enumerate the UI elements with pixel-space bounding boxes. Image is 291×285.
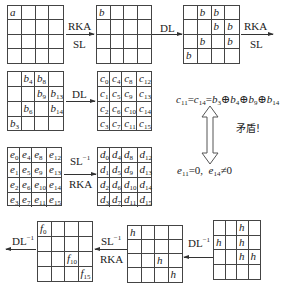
cell-subscript: 8 [43, 78, 47, 86]
cell-subscript: 1 [106, 169, 110, 177]
grid-cell: c1 [98, 87, 110, 102]
grid-cell: h [237, 221, 249, 236]
grid-cell: h [249, 250, 261, 265]
cell-subscript: 13 [145, 169, 152, 177]
grid-b-plain: b [96, 5, 152, 64]
label-contradiction: 矛盾! [236, 120, 260, 135]
label-sl-2: SL [250, 38, 263, 50]
sl-text: SL [70, 155, 83, 167]
equation-e11-e14: e11=0, e14≠0 [177, 164, 232, 178]
grid-cell: f10 [65, 252, 79, 267]
grid-cell: e15 [47, 193, 61, 207]
grid-cell [22, 49, 36, 63]
cell-subscript: 14 [54, 184, 61, 192]
grid-cell: b [97, 6, 111, 20]
grid-cell [212, 35, 226, 49]
grid-cell [36, 49, 50, 63]
cell-value: b [214, 20, 220, 32]
cell-value: h [130, 226, 136, 238]
cell-subscript: 5 [118, 169, 122, 177]
grid-cell [97, 35, 111, 49]
grid-cell [65, 222, 79, 237]
cell-subscript: 10 [130, 184, 137, 192]
grid-cell: c6 [110, 102, 122, 117]
grid-cell [79, 237, 93, 252]
arrow-left-2 [95, 249, 127, 250]
dl-text: DL [188, 237, 203, 249]
label-dl-2: DL [72, 88, 87, 100]
label-rka-1: RKA [68, 20, 91, 32]
cell-subscript: 6 [118, 184, 122, 192]
grid-cell [22, 117, 36, 131]
cell-value: b [186, 49, 192, 61]
grid-cell: c0 [98, 72, 110, 87]
grid-cell: d0 [98, 148, 110, 163]
grid-cell [128, 254, 142, 268]
grid-cell [138, 6, 152, 20]
grid-cell [124, 49, 138, 63]
cell-subscript: 11 [129, 123, 136, 131]
grid-cell [49, 35, 63, 49]
grid-cell: d12 [138, 148, 153, 163]
inverse-sup: −1 [83, 154, 90, 162]
eq-sub: 14 [272, 99, 279, 107]
grid-cell [198, 49, 212, 63]
grid-h-dl: hhhhh [213, 220, 261, 280]
grid-cell: c9 [122, 87, 137, 102]
grid-cell [49, 20, 63, 34]
grid-cell: a [8, 6, 22, 20]
cell-subscript: 8 [129, 78, 133, 86]
grid-cell [249, 236, 261, 251]
cell-subscript: 0 [43, 228, 47, 236]
label-sl-inv: SL−1 [70, 154, 90, 167]
grid-cell: e14 [47, 178, 61, 193]
grid-cell [8, 35, 22, 49]
grid-cell: d4 [110, 148, 122, 163]
cell-value: h [239, 236, 245, 248]
grid-cell: e4 [20, 148, 32, 163]
grid-cell [198, 20, 212, 34]
cell-subscript: 6 [27, 184, 31, 192]
grid-cell: h [128, 226, 142, 240]
grid-cell: e11 [32, 193, 47, 207]
grid-cell [155, 226, 169, 240]
grid-cell: b8 [35, 72, 49, 87]
grid-cell [138, 35, 152, 49]
cell-subscript: 5 [117, 93, 121, 101]
grid-cell [22, 35, 36, 49]
grid-cell [184, 20, 198, 34]
grid-cell [22, 20, 36, 34]
grid-cell [38, 237, 52, 252]
grid-cell: d7 [110, 193, 122, 207]
grid-cell [52, 267, 66, 282]
grid-cell [22, 6, 36, 20]
grid-cell [65, 267, 79, 282]
grid-b-indexed: b4b8b9b13b6b14b3 [7, 71, 64, 131]
eq-value: 0 [227, 164, 233, 176]
grid-cell: d6 [110, 178, 122, 193]
cell-subscript: 13 [56, 93, 63, 101]
grid-cell [111, 20, 125, 34]
grid-cell [8, 72, 22, 87]
label-sl-inv-2: SL−1 [101, 234, 121, 247]
grid-cell: c15 [137, 117, 151, 131]
grid-cell: h [155, 254, 169, 268]
grid-cell: c11 [122, 117, 137, 131]
cell-subscript: 7 [117, 123, 121, 131]
cell-subscript: 13 [144, 93, 151, 101]
grid-cell: b3 [8, 117, 22, 131]
cell-subscript: 15 [54, 199, 61, 207]
cell-subscript: 14 [56, 108, 63, 116]
grid-cell [111, 35, 125, 49]
cell-subscript: 8 [39, 154, 43, 162]
grid-a: a [7, 5, 64, 64]
grid-cell [52, 237, 66, 252]
grid-cell: b [198, 6, 212, 20]
cell-value: h [251, 250, 257, 262]
grid-cell: e9 [32, 163, 47, 178]
grid-cell [169, 226, 183, 240]
grid-cell [138, 49, 152, 63]
grid-cell: b [212, 6, 226, 20]
grid-cell: e1 [8, 163, 20, 178]
cell-value: b [200, 6, 206, 18]
